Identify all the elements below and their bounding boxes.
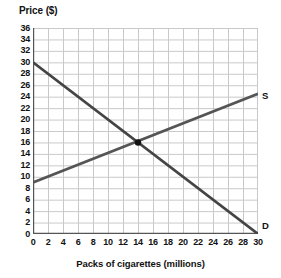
x-tick-label: 30 (248, 238, 268, 247)
plot-canvas (33, 28, 258, 234)
y-tick-label: 24 (12, 92, 30, 101)
y-tick-label: 18 (12, 127, 30, 136)
series-lines (33, 62, 258, 234)
y-tick-label: 16 (12, 138, 30, 147)
y-tick-label: 14 (12, 149, 30, 158)
equilibrium-marker (135, 139, 141, 145)
y-tick-label: 2 (12, 218, 30, 227)
supply-demand-chart: Price ($) 363432302826242220181614121086… (0, 0, 281, 278)
y-tick-label: 12 (12, 161, 30, 170)
y-tick-label: 10 (12, 172, 30, 181)
y-tick-label: 6 (12, 195, 30, 204)
y-tick-label: 34 (12, 35, 30, 44)
grid-lines (33, 28, 258, 234)
y-axis-tick-labels: 363432302826242220181614121086420 (11, 0, 30, 278)
series-label-supply: S (262, 91, 268, 101)
y-tick-label: 4 (12, 207, 30, 216)
y-tick-label: 36 (12, 24, 30, 33)
plot-area (33, 28, 258, 234)
y-tick-label: 32 (12, 46, 30, 55)
series-label-demand: D (262, 221, 269, 231)
y-tick-label: 30 (12, 58, 30, 67)
y-tick-label: 22 (12, 104, 30, 113)
y-tick-label: 8 (12, 184, 30, 193)
y-tick-label: 26 (12, 81, 30, 90)
y-tick-label: 28 (12, 69, 30, 78)
y-tick-label: 20 (12, 115, 30, 124)
x-axis-title: Packs of cigarettes (millions) (0, 258, 281, 269)
